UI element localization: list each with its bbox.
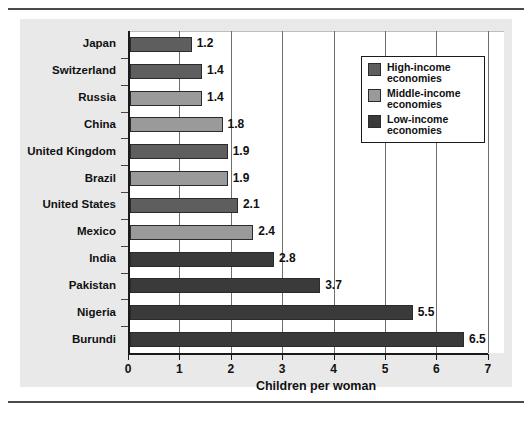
category-label: Brazil (20, 172, 116, 184)
legend-label-line2: economies (387, 73, 451, 84)
x-tick-label: 6 (424, 362, 448, 376)
bar-value-label: 1.9 (233, 171, 250, 185)
figure-page: 01234567 Japan1.2Switzerland1.4Russia1.4… (0, 0, 532, 421)
legend-label-line2: economies (387, 125, 448, 136)
legend-swatch-icon (368, 115, 381, 128)
bar-value-label: 2.4 (258, 224, 275, 238)
category-label: Japan (20, 37, 116, 49)
bar (130, 198, 238, 213)
category-label: China (20, 118, 116, 130)
figure-panel: 01234567 Japan1.2Switzerland1.4Russia1.4… (20, 19, 512, 387)
x-axis-title: Children per woman (128, 379, 504, 393)
x-tick-mark (231, 354, 232, 360)
bar-value-label: 3.7 (325, 278, 342, 292)
legend-label-line2: economies (387, 99, 461, 110)
category-label: Switzerland (20, 64, 116, 76)
bar-row: United States2.1 (20, 192, 512, 219)
x-tick-mark (436, 354, 437, 360)
bar (130, 252, 274, 267)
bar (130, 91, 202, 106)
bar (130, 37, 192, 52)
bar (130, 64, 202, 79)
x-tick-label: 3 (270, 362, 294, 376)
x-tick-label: 2 (219, 362, 243, 376)
x-tick-mark (334, 354, 335, 360)
legend-label: Low-incomeeconomies (387, 114, 448, 136)
bar-value-label: 2.1 (243, 197, 260, 211)
x-tick-mark (282, 354, 283, 360)
category-label: Russia (20, 91, 116, 103)
bar-value-label: 2.8 (279, 251, 296, 265)
page-rule-bottom (8, 401, 524, 403)
bar (130, 117, 223, 132)
category-label: United Kingdom (20, 145, 116, 157)
x-tick-label: 0 (116, 362, 140, 376)
bar (130, 332, 464, 347)
legend-item: Middle-incomeeconomies (368, 88, 478, 110)
x-tick-label: 1 (167, 362, 191, 376)
bar (130, 171, 228, 186)
bar (130, 225, 253, 240)
bar-row: Burundi6.5 (20, 326, 512, 353)
x-tick-label: 5 (373, 362, 397, 376)
chart-legend: High-incomeeconomiesMiddle-incomeeconomi… (361, 56, 485, 143)
category-label: United States (20, 198, 116, 210)
category-label: Mexico (20, 225, 116, 237)
bar-value-label: 1.9 (233, 144, 250, 158)
bar-row: Nigeria5.5 (20, 299, 512, 326)
bar (130, 278, 320, 293)
category-label: India (20, 252, 116, 264)
bar-row: Pakistan3.7 (20, 273, 512, 300)
x-tick-label: 7 (476, 362, 500, 376)
legend-item: High-incomeeconomies (368, 62, 478, 84)
bar-value-label: 1.4 (207, 63, 224, 77)
bar-row: Brazil1.9 (20, 165, 512, 192)
bar-row: India2.8 (20, 246, 512, 273)
bar-value-label: 1.2 (197, 36, 214, 50)
category-label: Pakistan (20, 279, 116, 291)
bar-row: Japan1.2 (20, 31, 512, 58)
bar-value-label: 6.5 (469, 332, 486, 346)
x-tick-mark (385, 354, 386, 360)
legend-label: Middle-incomeeconomies (387, 88, 461, 110)
bar (130, 305, 413, 320)
category-label: Burundi (20, 333, 116, 345)
x-tick-mark (128, 354, 129, 360)
legend-swatch-icon (368, 89, 381, 102)
bar (130, 144, 228, 159)
x-tick-mark (179, 354, 180, 360)
page-rule-top (8, 8, 524, 10)
x-tick-label: 4 (322, 362, 346, 376)
bar-value-label: 1.8 (228, 117, 245, 131)
legend-item: Low-incomeeconomies (368, 114, 478, 136)
x-tick-mark (488, 354, 489, 360)
bar-value-label: 5.5 (418, 305, 435, 319)
bar-chart: 01234567 Japan1.2Switzerland1.4Russia1.4… (20, 19, 512, 387)
legend-swatch-icon (368, 63, 381, 76)
category-label: Nigeria (20, 306, 116, 318)
x-axis-line (128, 353, 488, 355)
bar-value-label: 1.4 (207, 90, 224, 104)
legend-label: High-incomeeconomies (387, 62, 451, 84)
bar-row: Mexico2.4 (20, 219, 512, 246)
